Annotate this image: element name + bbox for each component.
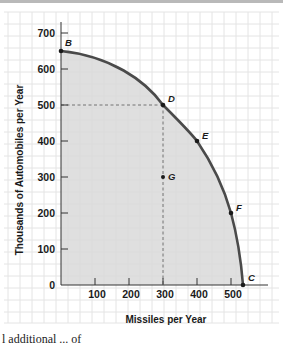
y-tick-600: 600 <box>37 63 55 75</box>
x-tick-200: 200 <box>122 288 140 300</box>
y-tick-100: 100 <box>37 243 55 255</box>
point-label-d: D <box>168 93 175 104</box>
point-e-marker <box>195 139 200 144</box>
y-tick-labels: 700 600 500 400 300 200 100 0 <box>37 27 55 291</box>
y-tick-300: 300 <box>37 171 55 183</box>
x-tick-labels: 100 200 300 400 500 <box>88 288 242 300</box>
x-tick-500: 500 <box>224 288 242 300</box>
point-f-marker <box>229 211 234 216</box>
cropped-body-text: l additional ... of <box>2 332 81 343</box>
x-tick-100: 100 <box>88 288 106 300</box>
y-tick-500: 500 <box>37 99 55 111</box>
y-tick-700: 700 <box>37 27 55 39</box>
point-g-marker <box>161 175 165 179</box>
x-axis-title: Missiles per Year <box>126 314 207 325</box>
point-d-marker <box>161 103 166 108</box>
point-label-g: G <box>168 171 176 182</box>
point-b-marker <box>59 49 64 54</box>
point-label-b: B <box>65 37 72 48</box>
y-axis-title: Thousands of Automobiles per Year <box>14 85 25 256</box>
ppf-chart: 700 600 500 400 300 200 100 0 100 200 30… <box>0 0 283 343</box>
y-tick-0: 0 <box>49 279 55 291</box>
y-tick-200: 200 <box>37 207 55 219</box>
point-label-e: E <box>202 130 209 141</box>
x-tick-400: 400 <box>190 288 208 300</box>
y-tick-400: 400 <box>37 135 55 147</box>
point-label-f: F <box>236 202 242 213</box>
x-tick-300: 300 <box>156 288 174 300</box>
point-label-c: C <box>248 272 255 283</box>
point-c-marker <box>241 283 246 288</box>
